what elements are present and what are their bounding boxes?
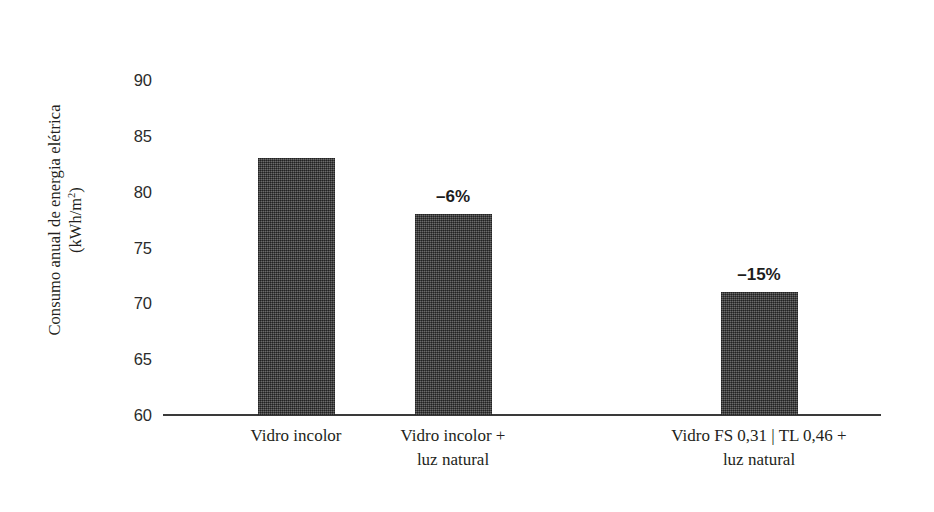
y-axis-tick-label: 80 bbox=[96, 182, 152, 201]
y-axis-title: Consumo anual de energia elétrica (kWh/m… bbox=[32, 10, 98, 430]
y-axis-tick-label: 85 bbox=[96, 126, 152, 145]
plot-area: –6%–15% bbox=[163, 80, 881, 415]
y-axis-units-suffix: ) bbox=[66, 187, 85, 193]
bar[interactable] bbox=[415, 214, 492, 415]
y-axis-tick-label: 65 bbox=[96, 350, 152, 369]
x-axis-category-label: Vidro incolor +luz natural bbox=[293, 424, 613, 472]
bar-group: –6% bbox=[415, 214, 492, 415]
y-axis-units-exponent: 2 bbox=[66, 193, 77, 198]
y-axis-title-line-1: Consumo anual de energia elétrica bbox=[44, 104, 65, 335]
category-label-line-2: luz natural bbox=[599, 448, 919, 472]
y-axis-units-prefix: (kWh/m bbox=[66, 198, 85, 253]
bar-group bbox=[258, 158, 335, 415]
bar[interactable] bbox=[721, 292, 798, 415]
category-label-line-1: Vidro incolor + bbox=[401, 426, 506, 445]
y-axis-tick-label: 75 bbox=[96, 238, 152, 257]
y-axis-tick-label: 60 bbox=[96, 406, 152, 425]
bar-value-annotation: –15% bbox=[737, 265, 780, 285]
x-axis-category-label: Vidro FS 0,31 | TL 0,46 +luz natural bbox=[599, 424, 919, 472]
bar-group: –15% bbox=[721, 292, 798, 415]
bar[interactable] bbox=[258, 158, 335, 415]
bar-value-annotation: –6% bbox=[436, 187, 470, 207]
category-label-line-2: luz natural bbox=[293, 448, 613, 472]
x-axis-category-labels: Vidro incolorVidro incolor +luz naturalV… bbox=[163, 424, 881, 494]
y-axis-tick-label: 90 bbox=[96, 71, 152, 90]
y-axis-tick-label: 70 bbox=[96, 294, 152, 313]
y-axis-title-line-2: (kWh/m2) bbox=[65, 187, 86, 253]
chart-figure: Consumo anual de energia elétrica (kWh/m… bbox=[0, 0, 934, 512]
category-label-line-1: Vidro FS 0,31 | TL 0,46 + bbox=[671, 426, 846, 445]
